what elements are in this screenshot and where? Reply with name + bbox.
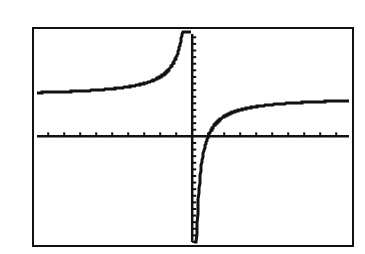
graph-canvas xyxy=(0,0,365,254)
